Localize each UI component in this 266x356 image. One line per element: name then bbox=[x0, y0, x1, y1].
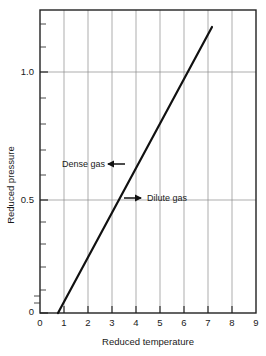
annotation-dilute-gas-label: Dilute gas bbox=[147, 193, 188, 203]
x-tick-label-5: 5 bbox=[157, 317, 162, 328]
annotation-dense-gas-label: Dense gas bbox=[62, 159, 106, 169]
x-tick-label-0: 0 bbox=[37, 317, 42, 328]
y-tick-label-0: 0 bbox=[29, 306, 34, 317]
y-tick-label-0p5: 0.5 bbox=[21, 194, 34, 205]
x-tick-label-8: 8 bbox=[229, 317, 234, 328]
x-axis-title: Reduced temperature bbox=[102, 336, 194, 347]
y-tick-label-1p0: 1.0 bbox=[21, 66, 34, 77]
y-axis-title: Reduced pressure bbox=[5, 146, 16, 224]
x-tick-label-7: 7 bbox=[205, 317, 210, 328]
x-tick-label-9: 9 bbox=[253, 317, 258, 328]
x-tick-label-6: 6 bbox=[181, 317, 186, 328]
x-tick-label-1: 1 bbox=[61, 317, 66, 328]
x-tick-label-2: 2 bbox=[85, 317, 90, 328]
x-tick-label-3: 3 bbox=[109, 317, 114, 328]
chart-canvas: 1.0 0.5 0 0 1 2 3 4 5 6 7 8 9 Reduced te… bbox=[0, 0, 266, 356]
x-tick-label-4: 4 bbox=[133, 317, 138, 328]
chart-figure: 1.0 0.5 0 0 1 2 3 4 5 6 7 8 9 Reduced te… bbox=[0, 0, 266, 356]
